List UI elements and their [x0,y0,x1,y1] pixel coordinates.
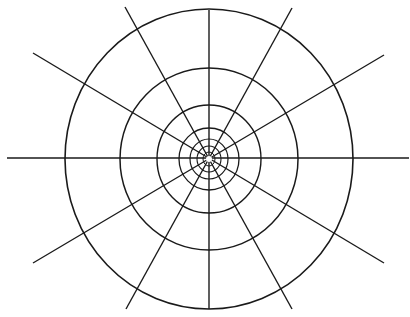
polar-grid-diagram [0,0,410,317]
center-hole [206,156,212,162]
polar-grid-canvas [0,0,410,317]
